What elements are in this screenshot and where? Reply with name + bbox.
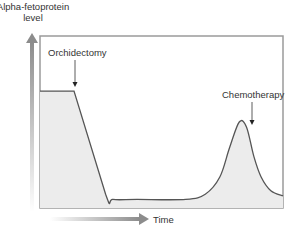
y-axis-label-line1: Alpha-fetoprotein — [0, 1, 69, 12]
x-axis-arrow — [50, 213, 149, 225]
x-axis-label: Time — [153, 214, 174, 225]
annotation-chemotherapy-label: Chemotherapy — [222, 89, 285, 100]
annotation-orchidectomy-label: Orchidectomy — [48, 47, 107, 58]
y-axis-arrow — [26, 33, 38, 212]
y-axis-label-line2: level — [23, 12, 43, 23]
chart: Orchidectomy Chemotherapy Alpha-fetoprot… — [0, 0, 296, 234]
